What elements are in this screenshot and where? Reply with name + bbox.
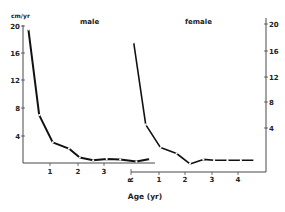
data-point — [135, 161, 137, 163]
y-unit-label: cm/yr — [11, 12, 30, 20]
x-tick-label: 2 — [183, 176, 188, 184]
female-title: female — [185, 18, 212, 26]
male-x-ticks: 1 2 3 — [48, 163, 107, 176]
y-tick-label: 12 — [10, 77, 20, 85]
x-axis-title: Age (yr) — [128, 192, 162, 201]
x-tick-label: 1 — [157, 176, 162, 184]
data-point — [79, 156, 81, 158]
data-point — [68, 148, 70, 150]
data-point — [133, 41, 135, 43]
x-tick-label: 4 — [236, 176, 241, 184]
data-point — [202, 158, 204, 160]
data-point — [226, 159, 228, 161]
y-tick-label: 8 — [269, 99, 274, 107]
origin-marker-label: R — [127, 177, 135, 183]
data-point — [92, 159, 94, 161]
male-title: male — [80, 18, 99, 26]
female-series-line — [134, 43, 255, 164]
y-tick-label: 8 — [15, 105, 20, 113]
x-tick-label: 1 — [48, 168, 53, 176]
y-tick-label: 4 — [269, 125, 274, 133]
data-point — [213, 159, 215, 161]
data-point — [27, 28, 29, 30]
x-tick-label: 3 — [102, 168, 107, 176]
data-point — [189, 163, 191, 165]
growth-velocity-chart: cm/yr male 20 16 12 8 4 1 2 3 — [0, 0, 285, 212]
y-tick-label: 20 — [10, 23, 20, 31]
y-tick-label: 16 — [269, 48, 279, 56]
data-point — [175, 152, 177, 154]
data-point — [106, 158, 108, 160]
y-tick-label: 4 — [15, 133, 20, 141]
data-point — [149, 158, 151, 160]
data-point — [145, 124, 147, 126]
female-x-ticks: R 1 2 3 4 — [127, 169, 241, 184]
female-series-points — [133, 41, 256, 165]
male-panel: cm/yr male 20 16 12 8 4 1 2 3 — [10, 12, 155, 176]
x-tick-label: 2 — [76, 168, 81, 176]
data-point — [253, 159, 255, 161]
data-point — [52, 141, 54, 143]
male-series-points — [27, 28, 151, 162]
data-point — [119, 158, 121, 160]
data-point — [240, 159, 242, 161]
y-tick-label: 16 — [10, 50, 20, 58]
x-tick-label: 3 — [210, 176, 215, 184]
y-tick-label: 20 — [269, 21, 279, 29]
data-point — [38, 114, 40, 116]
male-series-line — [28, 29, 149, 161]
data-point — [159, 146, 161, 148]
y-tick-label: 12 — [269, 74, 279, 82]
